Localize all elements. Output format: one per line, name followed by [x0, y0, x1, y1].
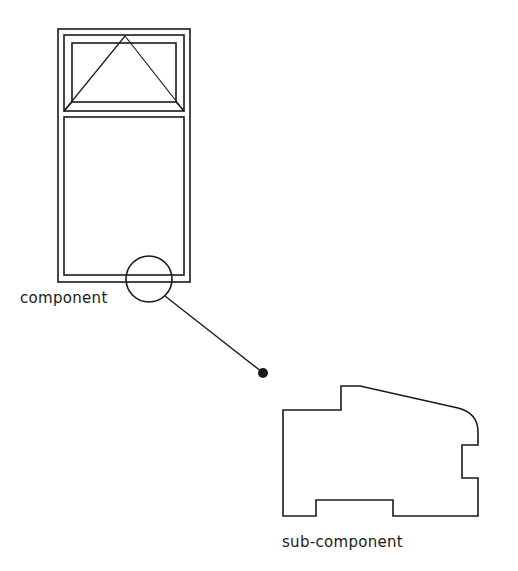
detail-circle	[126, 256, 172, 302]
transom-inner-pane	[72, 43, 176, 102]
lower-pane-frame	[64, 117, 184, 275]
sub-component-profile	[283, 386, 478, 516]
transom-frame	[64, 35, 184, 111]
window-elevation	[58, 29, 190, 282]
sub-component-label: sub-component	[282, 533, 403, 551]
leader-line	[165, 296, 262, 372]
component-label: component	[20, 289, 108, 307]
window-outer-frame	[58, 29, 190, 282]
diagram-canvas	[0, 0, 518, 571]
opening-triangle-icon	[64, 36, 184, 111]
leader-dot	[258, 368, 268, 378]
